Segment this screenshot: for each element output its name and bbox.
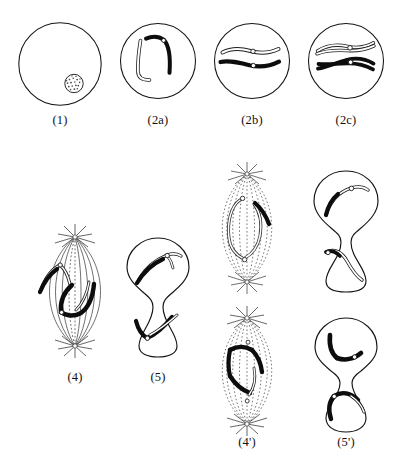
centromere-dot <box>348 60 353 65</box>
cell-membrane <box>121 24 196 99</box>
centromere-dot <box>145 336 149 340</box>
centromere-dot <box>332 394 336 398</box>
panel-2a-caption: (2a) <box>118 113 198 128</box>
centromere-dot <box>326 251 330 255</box>
centromere-dot <box>348 46 353 51</box>
centromere-dot <box>58 263 62 267</box>
centromere-dot <box>246 340 250 344</box>
chromosome-dark-v <box>230 347 252 350</box>
panel-2c-figure <box>306 20 386 102</box>
centromere-dot <box>352 355 356 359</box>
centromere-dot <box>251 63 255 67</box>
panel-4-prime-caption: (4') <box>204 435 290 450</box>
centromere-dot <box>242 257 246 261</box>
panel-4-caption: (4) <box>32 370 118 385</box>
aster-top <box>228 162 266 184</box>
panel-1-caption: (1) <box>17 113 103 128</box>
panel-2b-figure <box>212 20 292 102</box>
chromosome-dark-v <box>61 284 94 316</box>
diagram-canvas: (1) (2a) (2b) <box>0 0 405 475</box>
centromere-dot <box>245 399 249 403</box>
aster-top <box>227 306 267 328</box>
centromere-dot <box>162 38 166 42</box>
nucleus-stippled <box>65 74 83 92</box>
panel-5-prime-caption: (5') <box>304 435 388 450</box>
panel-4-prime-figure <box>204 306 290 436</box>
panel-5-prime-figure <box>304 315 388 435</box>
panel-2c-caption: (2c) <box>306 113 386 128</box>
chromosome-light-v <box>228 200 260 259</box>
centromere-dot <box>60 310 64 314</box>
panel-1-figure <box>17 20 103 108</box>
panel-unlabeled-top-dumbbell-figure <box>304 168 388 294</box>
cell-membrane-dumbbell <box>315 318 377 432</box>
panel-5-caption: (5) <box>117 370 199 385</box>
centromere-dot <box>251 49 255 53</box>
chromosome-dark-arm <box>229 350 231 376</box>
panel-4-figure <box>32 224 118 358</box>
panel-2b-caption: (2b) <box>212 113 292 128</box>
centromere-dot <box>165 253 169 257</box>
centromere-dot <box>349 186 354 191</box>
aster-bottom <box>55 336 95 358</box>
panel-2a-figure <box>118 20 198 102</box>
panel-5-figure <box>117 235 199 359</box>
cell-membrane <box>19 23 101 105</box>
panel-unlabeled-top-spindle-figure <box>204 162 290 294</box>
aster-bottom <box>228 272 266 294</box>
aster-top <box>55 224 95 247</box>
centromere-dot <box>240 196 244 200</box>
